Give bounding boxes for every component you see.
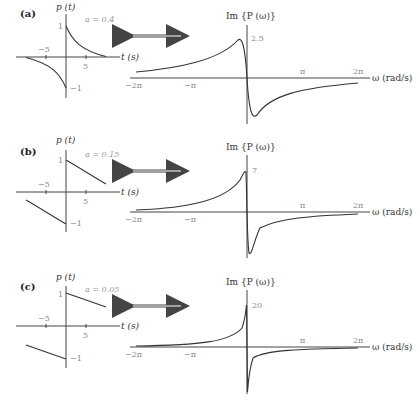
- svg-text:−2π: −2π: [125, 81, 142, 90]
- svg-text:Im {P (ω)}: Im {P (ω)}: [226, 277, 276, 287]
- panel-c: (c) p (t) a = 0.05 −5 5 1 −1 t (s) Im {P…: [16, 272, 412, 394]
- svg-text:−π: −π: [184, 350, 196, 359]
- svg-text:p (t): p (t): [56, 272, 76, 282]
- svg-text:1: 1: [58, 156, 63, 165]
- svg-text:2π: 2π: [353, 201, 363, 210]
- svg-text:−π: −π: [184, 81, 196, 90]
- panel-b: (b) p (t) a = 0.15 −5 5 1 −1 t (s) Im {P…: [16, 135, 412, 258]
- tick-neg5: −5: [38, 45, 50, 54]
- figure: (a) p (t) a = 0.4 −5 5 1 −1 t (s) Im {P …: [0, 0, 420, 409]
- svg-text:20: 20: [252, 301, 262, 310]
- svg-text:−5: −5: [38, 314, 50, 323]
- svg-text:−5: −5: [38, 180, 50, 189]
- svg-text:π: π: [300, 336, 305, 345]
- panel-a: (a) p (t) a = 0.4 −5 5 1 −1 t (s) Im {P …: [16, 2, 412, 124]
- svg-text:5: 5: [83, 331, 88, 340]
- svg-text:π: π: [300, 201, 305, 210]
- freq-xlabel: ω (rad/s): [372, 73, 412, 83]
- freq-ylabel: Im {P (ω)}: [226, 11, 276, 21]
- svg-text:−2π: −2π: [125, 350, 142, 359]
- tick-1: 1: [58, 22, 63, 31]
- svg-text:p (t): p (t): [56, 135, 76, 145]
- svg-text:π: π: [300, 67, 305, 76]
- panel-tag: (a): [20, 8, 36, 19]
- a-value-label: a = 0.4: [85, 15, 114, 24]
- svg-text:t (s): t (s): [121, 187, 140, 197]
- svg-text:Im {P (ω)}: Im {P (ω)}: [226, 142, 276, 152]
- svg-text:ω (rad/s): ω (rad/s): [372, 342, 412, 352]
- svg-text:1: 1: [58, 290, 63, 299]
- tick-neg1: −1: [70, 84, 82, 93]
- svg-text:(b): (b): [20, 146, 36, 157]
- svg-text:2π: 2π: [353, 336, 363, 345]
- time-xlabel: t (s): [121, 52, 140, 62]
- svg-text:5: 5: [83, 197, 88, 206]
- svg-text:a = 0.05: a = 0.05: [85, 285, 119, 294]
- svg-text:ω (rad/s): ω (rad/s): [372, 207, 412, 217]
- svg-text:−1: −1: [70, 219, 82, 228]
- svg-text:a = 0.15: a = 0.15: [85, 150, 119, 159]
- svg-text:−1: −1: [70, 354, 82, 363]
- peak-label: 2.5: [251, 34, 264, 43]
- tick-5: 5: [83, 62, 88, 71]
- svg-text:2π: 2π: [353, 67, 363, 76]
- time-ylabel: p (t): [56, 2, 76, 12]
- svg-text:(c): (c): [20, 281, 36, 292]
- svg-text:7: 7: [252, 166, 257, 175]
- svg-text:−2π: −2π: [125, 215, 142, 224]
- svg-text:t (s): t (s): [121, 321, 140, 331]
- svg-text:−π: −π: [184, 215, 196, 224]
